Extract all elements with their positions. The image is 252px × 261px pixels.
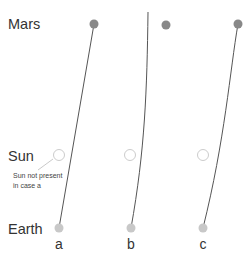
light-path-diagram: Mars Sun Earth Sun not present in case a… (0, 0, 252, 261)
sun-circle-a (54, 150, 65, 161)
mars-dot-c (234, 20, 243, 29)
light-path-a (59, 24, 94, 228)
mars-dot-b (162, 21, 171, 30)
case-label-c: c (200, 236, 207, 252)
annotation-line-1: Sun not present (13, 172, 62, 180)
light-path-b (131, 12, 148, 228)
case-a: a (54, 20, 99, 253)
sun-circle-b (125, 150, 136, 161)
annotation-leader-line (38, 159, 53, 170)
row-label-mars: Mars (8, 16, 40, 32)
case-label-a: a (55, 236, 63, 252)
row-label-earth: Earth (8, 221, 43, 237)
case-label-b: b (127, 236, 135, 252)
earth-dot-b (127, 224, 136, 233)
light-path-c (203, 24, 238, 228)
annotation-line-2: in case a (13, 182, 41, 189)
earth-dot-c (199, 224, 208, 233)
sun-circle-c (198, 150, 209, 161)
earth-dot-a (55, 224, 64, 233)
row-label-sun: Sun (8, 148, 34, 164)
mars-dot-a (90, 20, 99, 29)
case-c: c (198, 20, 243, 253)
case-b: b (125, 12, 171, 252)
